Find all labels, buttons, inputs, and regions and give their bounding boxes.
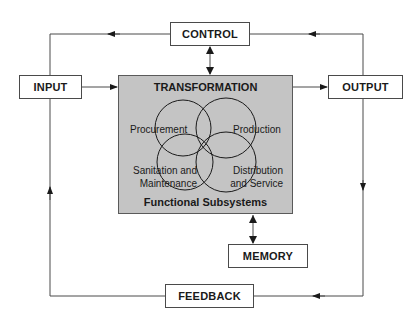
subsystem-procurement: Procurement [130,123,187,136]
subsystem-production: Production [233,123,281,136]
functional-subsystems-label: Functional Subsystems [119,196,292,208]
transformation-box: TRANSFORMATION Procurement Production Sa… [118,75,293,214]
input-box: INPUT [19,75,82,99]
feedback-box: FEEDBACK [165,284,254,308]
systems-model-diagram: CONTROL INPUT OUTPUT MEMORY FEEDBACK TRA… [0,0,416,321]
memory-label: MEMORY [243,250,293,262]
control-label: CONTROL [182,28,238,40]
venn-circles [118,75,293,214]
memory-box: MEMORY [228,244,308,268]
input-label: INPUT [34,81,68,93]
output-box: OUTPUT [328,75,403,99]
output-label: OUTPUT [342,81,388,93]
feedback-label: FEEDBACK [178,290,241,302]
subsystem-distribution-service: Distribution and Service [225,164,283,190]
control-box: CONTROL [170,22,250,46]
subsystem-sanitation-maintenance: Sanitation and Maintenance [129,164,197,190]
